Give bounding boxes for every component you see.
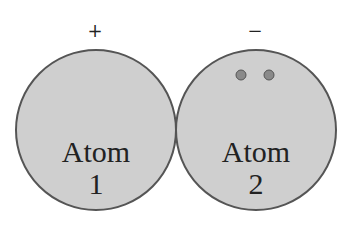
ionic-bond-diagram: + − Atom 1 Atom 2	[0, 0, 353, 229]
electron-dot-icon	[264, 70, 274, 80]
atom-1-charge: +	[87, 20, 102, 41]
atom-2-label: Atom 2	[222, 136, 290, 200]
atom-2-name: Atom	[222, 136, 290, 168]
atom-1-number: 1	[62, 168, 130, 200]
electron-dot-icon	[236, 70, 246, 80]
atom-2-charge: −	[247, 20, 262, 41]
atom-1-label: Atom 1	[62, 136, 130, 200]
atom-2-number: 2	[222, 168, 290, 200]
atoms-drawing	[0, 0, 353, 229]
atom-1-name: Atom	[62, 136, 130, 168]
